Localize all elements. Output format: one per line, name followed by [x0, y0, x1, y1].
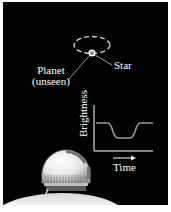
x-axis-label: Time	[113, 162, 136, 173]
planet-unseen-note: (unseen)	[32, 76, 70, 87]
star-label: Star	[114, 60, 132, 71]
planet-label: Planet (unseen)	[32, 65, 70, 87]
transit-diagram: Star Planet (unseen) Brightness Time	[0, 0, 171, 212]
y-axis-label: Brightness	[78, 90, 89, 137]
